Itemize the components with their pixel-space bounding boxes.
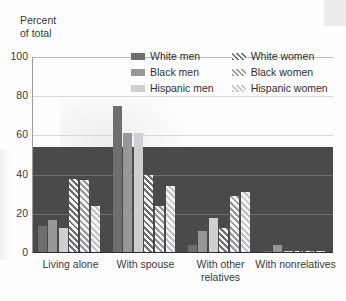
bar xyxy=(241,192,250,253)
x-axis-line xyxy=(33,252,333,254)
bar xyxy=(91,206,100,253)
bar xyxy=(59,228,68,253)
legend-swatch-black_men xyxy=(131,69,145,76)
legend-label: White women xyxy=(251,50,315,62)
legend-item: Hispanic men xyxy=(131,82,214,94)
legend-item: Black women xyxy=(232,66,328,78)
y-tick-60: 60 xyxy=(16,128,28,140)
bar xyxy=(80,180,89,253)
bar xyxy=(48,220,57,253)
bar xyxy=(166,186,175,253)
bar xyxy=(209,218,218,253)
legend-label: Black men xyxy=(150,66,199,78)
bar xyxy=(123,133,132,253)
chart-root: Percent of total 020406080100 White menW… xyxy=(0,0,346,301)
y-axis-line xyxy=(32,57,34,253)
bar xyxy=(219,228,228,253)
legend-label: Hispanic men xyxy=(150,82,214,94)
bar xyxy=(134,133,143,253)
legend-label: Hispanic women xyxy=(251,82,328,94)
bar xyxy=(155,206,164,253)
bar xyxy=(38,226,47,253)
legend-swatch-white_men xyxy=(131,53,145,60)
legend-item: White women xyxy=(232,50,328,62)
legend-swatch-hispanic_men xyxy=(131,85,145,92)
y-axis-tick-labels: 020406080100 xyxy=(0,57,28,253)
x-tick-label: With nonrelatives xyxy=(246,258,345,271)
legend-swatch-hispanic_women xyxy=(232,85,246,92)
legend-swatch-white_women xyxy=(232,53,246,60)
bar xyxy=(113,106,122,253)
bar xyxy=(198,231,207,253)
y-tick-40: 40 xyxy=(16,168,28,180)
bar xyxy=(230,196,239,253)
bar xyxy=(144,175,153,253)
y-tick-0: 0 xyxy=(22,246,28,258)
legend-item: Black men xyxy=(131,66,214,78)
x-axis-tick-labels: Living aloneWith spouseWith other relati… xyxy=(33,258,333,294)
legend-label: White men xyxy=(150,50,200,62)
chart-legend: White menWhite womenBlack menBlack women… xyxy=(131,50,328,94)
y-tick-100: 100 xyxy=(10,50,28,62)
legend-swatch-black_women xyxy=(232,69,246,76)
legend-label: Black women xyxy=(251,66,313,78)
legend-item: Hispanic women xyxy=(232,82,328,94)
bar-group xyxy=(33,57,108,253)
bar xyxy=(69,179,78,253)
scan-artifact-top-right xyxy=(324,0,346,26)
y-axis-title: Percent of total xyxy=(20,14,56,39)
y-tick-20: 20 xyxy=(16,207,28,219)
legend-item: White men xyxy=(131,50,214,62)
y-tick-80: 80 xyxy=(16,89,28,101)
